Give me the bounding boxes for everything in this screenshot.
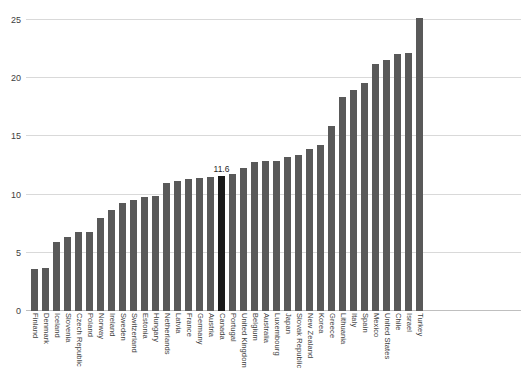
x-axis-label: Spain	[361, 313, 369, 333]
x-label-slot: Italy	[348, 313, 359, 390]
y-axis-tick-label: 0	[16, 307, 21, 316]
x-axis-label: Norway	[97, 313, 105, 339]
bar[interactable]	[339, 97, 346, 311]
y-axis-tick-label: 25	[11, 16, 21, 25]
bar[interactable]	[394, 54, 401, 311]
x-axis-label: Belgium	[251, 313, 259, 341]
bar[interactable]	[53, 242, 60, 311]
bar[interactable]	[174, 181, 181, 311]
bar[interactable]	[306, 149, 313, 311]
bar[interactable]	[119, 203, 126, 311]
bar[interactable]	[405, 53, 412, 311]
bar[interactable]	[350, 90, 357, 311]
x-label-slot: Sweden	[117, 313, 128, 390]
bar[interactable]	[207, 177, 214, 311]
y-axis-tick-label: 20	[11, 74, 21, 83]
bar[interactable]	[97, 218, 104, 311]
x-label-slot: Korea	[315, 313, 326, 390]
bar[interactable]	[372, 64, 379, 311]
bar[interactable]	[86, 232, 93, 311]
bar-slot	[337, 20, 348, 311]
bar-chart: 0510152025 11.6 FinlandDenmarkIcelandSlo…	[0, 0, 527, 390]
bar[interactable]	[31, 269, 38, 311]
x-axis-label: Hungary	[152, 313, 160, 342]
x-label-slot: United Kingdom	[238, 313, 249, 390]
bar-slot	[414, 20, 425, 311]
bar-slot	[183, 20, 194, 311]
y-axis-tick-label: 15	[11, 132, 21, 141]
x-axis-label: New Zealand	[306, 313, 314, 358]
x-label-slot: United States	[381, 313, 392, 390]
bar-series: 11.6	[26, 20, 521, 311]
plot-area: 0510152025 11.6	[26, 20, 521, 311]
x-axis-label: Austria	[207, 313, 215, 337]
bar-slot	[128, 20, 139, 311]
bar-slot	[260, 20, 271, 311]
x-label-slot: Australia	[260, 313, 271, 390]
x-label-slot: Finland	[29, 313, 40, 390]
bar[interactable]	[295, 155, 302, 311]
bar[interactable]	[42, 268, 49, 311]
bar-slot	[227, 20, 238, 311]
x-label-slot: Netherlands	[161, 313, 172, 390]
bar[interactable]	[64, 237, 71, 311]
bar-slot	[315, 20, 326, 311]
bar[interactable]	[240, 168, 247, 311]
x-axis-label: Poland	[86, 313, 94, 337]
bar-highlighted[interactable]	[218, 176, 225, 311]
bar[interactable]	[130, 200, 137, 311]
bar-slot	[95, 20, 106, 311]
x-axis-label: Germany	[196, 313, 204, 345]
bar[interactable]	[251, 162, 258, 311]
x-label-slot: New Zealand	[304, 313, 315, 390]
bar[interactable]	[383, 60, 390, 311]
bar[interactable]	[328, 126, 335, 311]
bar-slot	[370, 20, 381, 311]
x-label-slot: Denmark	[40, 313, 51, 390]
bar-slot	[172, 20, 183, 311]
x-label-slot: Iceland	[51, 313, 62, 390]
bar[interactable]	[229, 174, 236, 311]
bar[interactable]	[163, 183, 170, 311]
bar[interactable]	[317, 145, 324, 311]
y-axis-tick-label: 10	[11, 190, 21, 199]
x-label-slot: Poland	[84, 313, 95, 390]
bar-slot	[161, 20, 172, 311]
x-axis-label: Finland	[31, 313, 39, 338]
x-axis-label: Luxembourg	[273, 313, 281, 356]
bar-slot	[40, 20, 51, 311]
x-axis-category-labels: FinlandDenmarkIcelandSloveniaCzech Repub…	[26, 313, 521, 390]
bar-slot	[117, 20, 128, 311]
x-label-slot: Slovenia	[62, 313, 73, 390]
bar-slot	[392, 20, 403, 311]
bar[interactable]	[108, 210, 115, 311]
x-axis-label: United Kingdom	[240, 313, 248, 368]
x-axis-label: Sweden	[119, 313, 127, 341]
x-label-slot: Ireland	[106, 313, 117, 390]
bar[interactable]	[284, 157, 291, 311]
x-label-slot: Portugal	[227, 313, 238, 390]
x-label-slot: Greece	[326, 313, 337, 390]
bar-slot	[238, 20, 249, 311]
x-axis-label: Czech Republic	[75, 313, 83, 367]
bar-slot	[403, 20, 414, 311]
bar-slot	[62, 20, 73, 311]
x-label-slot: Mexico	[370, 313, 381, 390]
bar[interactable]	[141, 197, 148, 311]
bar[interactable]	[416, 18, 423, 311]
x-label-slot: Norway	[95, 313, 106, 390]
bar[interactable]	[361, 83, 368, 311]
bar[interactable]	[152, 196, 159, 311]
x-axis-label: Switzerland	[130, 313, 138, 353]
bar[interactable]	[75, 232, 82, 311]
bar-slot	[249, 20, 260, 311]
bar[interactable]	[273, 161, 280, 311]
x-axis-label: Estonia	[141, 313, 149, 339]
bar[interactable]	[196, 178, 203, 311]
bar[interactable]	[262, 161, 269, 311]
x-axis-label: Turkey	[416, 313, 424, 336]
bar[interactable]	[185, 179, 192, 311]
bar-slot	[293, 20, 304, 311]
bar-slot	[139, 20, 150, 311]
bar-slot	[271, 20, 282, 311]
